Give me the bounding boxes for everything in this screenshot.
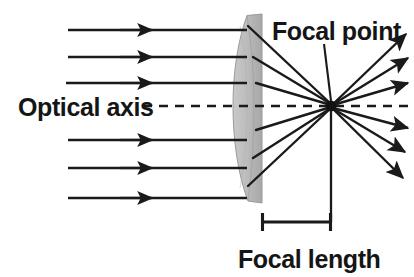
focal-length-label: Focal length [238, 245, 380, 273]
lens [233, 14, 262, 203]
diverging-ray [333, 108, 408, 128]
focal-point-dot [326, 101, 337, 112]
refracted-ray [253, 108, 331, 158]
refracted-ray [253, 57, 331, 104]
focal-point-leader-line [324, 44, 331, 101]
diverging-ray [332, 58, 408, 105]
lens-body [233, 14, 262, 203]
focal-length-bar [262, 213, 331, 231]
focal-point-label: Focal point [272, 17, 402, 45]
figure-canvas: Optical axis Focal point Focal length [0, 0, 414, 277]
optical-axis-label: Optical axis [18, 93, 154, 121]
optics-ray-diagram: Optical axis Focal point Focal length [0, 0, 414, 277]
